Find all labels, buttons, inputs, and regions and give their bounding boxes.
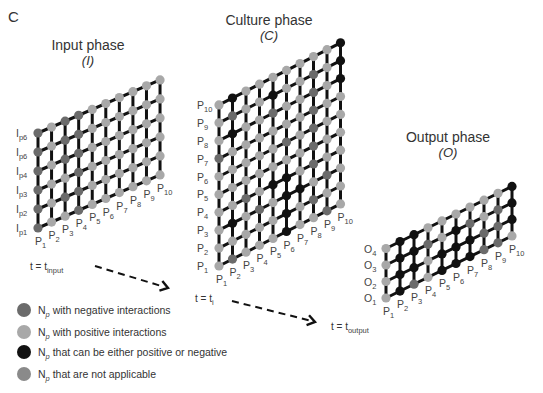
node-positive	[507, 231, 516, 240]
row-label: O1	[364, 292, 376, 307]
dashed-arrow	[95, 266, 164, 287]
node-either	[437, 266, 446, 275]
node-negative	[465, 219, 474, 228]
row-label: P7	[197, 153, 208, 168]
legend-swatch-positive	[17, 325, 31, 339]
legend-swatch-negative	[17, 303, 31, 317]
column-label: P4	[425, 284, 436, 299]
node-positive	[268, 162, 277, 171]
node-either	[228, 219, 237, 228]
node-positive	[423, 256, 432, 265]
node-positive	[128, 144, 137, 153]
node-either	[395, 237, 404, 246]
node-positive	[282, 102, 291, 111]
node-positive	[128, 163, 137, 172]
column-label: P1	[216, 273, 227, 288]
node-negative	[423, 240, 432, 249]
node-positive	[142, 81, 151, 90]
node-positive	[115, 93, 124, 102]
node-positive	[155, 94, 164, 103]
row-label: Ip2	[16, 203, 27, 218]
time-label: t = toutput	[331, 321, 370, 335]
time-label: t = ti	[195, 293, 214, 307]
node-positive	[437, 233, 446, 242]
node-negative	[309, 88, 318, 97]
node-positive	[47, 161, 56, 170]
node-positive	[214, 190, 223, 199]
node-positive	[88, 124, 97, 133]
node-positive	[142, 100, 151, 109]
phase-symbol: (C)	[260, 28, 278, 43]
node-negative	[282, 137, 291, 146]
node-negative	[74, 168, 83, 177]
node-positive	[295, 166, 304, 175]
node-positive	[241, 212, 250, 221]
grid-nodes	[33, 75, 164, 232]
node-negative	[74, 130, 83, 139]
column-label: P2	[397, 298, 408, 313]
panel-letter: C	[8, 8, 19, 25]
row-label: Ip4	[16, 165, 27, 180]
node-negative	[74, 149, 83, 158]
node-positive	[88, 162, 97, 171]
row-label: O2	[364, 276, 376, 291]
node-negative	[493, 222, 502, 231]
legend: Np with negative interactionsNp with pos…	[17, 303, 227, 383]
node-positive	[322, 188, 331, 197]
node-positive	[101, 194, 110, 203]
node-either	[228, 93, 237, 102]
node-positive	[142, 157, 151, 166]
node-positive	[381, 244, 390, 253]
node-positive	[155, 75, 164, 84]
node-negative	[214, 154, 223, 163]
node-negative	[493, 238, 502, 247]
node-positive	[47, 199, 56, 208]
node-positive	[61, 212, 70, 221]
row-label: Ip6	[16, 127, 27, 142]
node-positive	[255, 223, 264, 232]
legend-label: Np that are not applicable	[38, 368, 156, 383]
grid-input-phase: Input phase(I)Ip1Ip2Ip3Ip4Ip6Ip6P1P2P3P4…	[16, 37, 172, 250]
row-label: Ip3	[16, 184, 27, 199]
node-negative	[309, 195, 318, 204]
node-negative	[228, 255, 237, 264]
node-positive	[282, 84, 291, 93]
node-positive	[88, 105, 97, 114]
node-positive	[155, 132, 164, 141]
node-positive	[295, 77, 304, 86]
node-positive	[282, 120, 291, 129]
node-either	[336, 56, 345, 65]
node-positive	[115, 188, 124, 197]
node-either	[465, 236, 474, 245]
node-positive	[255, 151, 264, 160]
node-positive	[255, 98, 264, 107]
node-positive	[322, 153, 331, 162]
node-positive	[295, 202, 304, 211]
node-positive	[479, 196, 488, 205]
node-negative	[228, 111, 237, 120]
node-positive	[322, 45, 331, 54]
timeline: t = tinputt = tit = toutput	[30, 261, 370, 335]
node-positive	[228, 201, 237, 210]
node-positive	[241, 248, 250, 257]
dashed-arrow	[232, 301, 311, 321]
column-label: P1	[383, 305, 394, 320]
row-label: P4	[197, 206, 208, 221]
node-negative	[33, 147, 42, 156]
row-label: P3	[197, 224, 208, 239]
row-label: O4	[364, 243, 376, 258]
node-negative	[309, 159, 318, 168]
node-positive	[493, 189, 502, 198]
node-positive	[295, 220, 304, 229]
node-positive	[255, 80, 264, 89]
row-label: Ip6	[16, 146, 27, 161]
node-either	[268, 91, 277, 100]
column-label: P5	[439, 277, 450, 292]
node-negative	[33, 223, 42, 232]
node-positive	[155, 170, 164, 179]
node-positive	[228, 165, 237, 174]
column-label: P7	[297, 232, 308, 247]
column-label: P9	[495, 250, 506, 265]
grid-output-phase: Output phase(O)O1O2O3O4P1P2P3P4P5P6P7P8P…	[364, 129, 524, 320]
node-positive	[322, 135, 331, 144]
